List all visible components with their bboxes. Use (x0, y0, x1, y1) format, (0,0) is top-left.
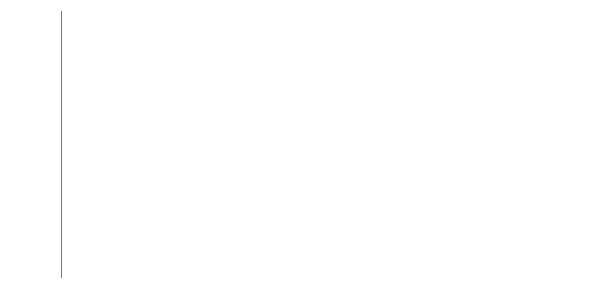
y-axis-line (61, 11, 62, 278)
bar-chart (0, 0, 595, 301)
